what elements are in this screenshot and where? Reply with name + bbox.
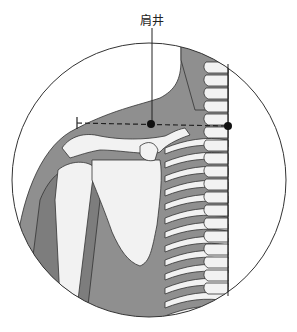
vertebra — [204, 75, 228, 86]
vertebra — [204, 231, 228, 242]
anatomy-figure — [0, 0, 297, 332]
vertebra — [204, 283, 228, 294]
vertebra — [204, 62, 228, 73]
vertebra — [204, 257, 228, 268]
vertebra — [204, 140, 228, 151]
vertebra — [204, 270, 228, 281]
coracoid — [140, 143, 158, 161]
vertebra — [204, 192, 228, 203]
vertebra — [204, 166, 228, 177]
vertebra — [204, 153, 228, 164]
c7-marker — [224, 122, 232, 130]
vertebra — [204, 244, 228, 255]
vertebra — [204, 218, 228, 229]
vertebra — [204, 205, 228, 216]
figure-content — [15, 40, 228, 332]
vertebra — [204, 127, 228, 138]
vertebra — [204, 88, 228, 99]
vertebra — [204, 179, 228, 190]
vertebra — [204, 101, 228, 112]
vertebra — [204, 114, 228, 125]
acupoint-marker — [147, 120, 155, 128]
